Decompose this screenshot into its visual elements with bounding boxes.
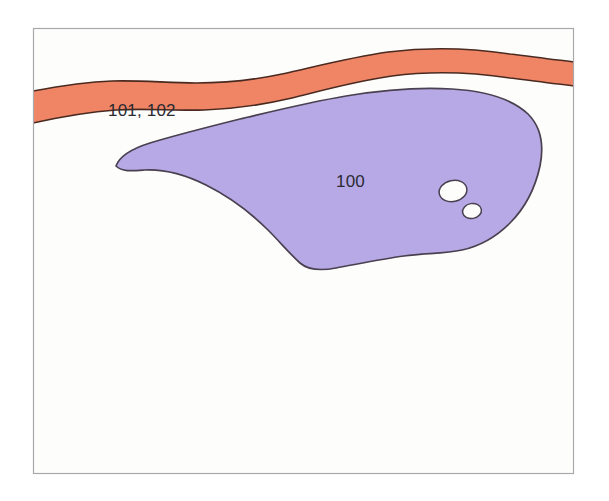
figure-root: 101, 102 100 bbox=[0, 0, 609, 501]
label-main-body: 100 bbox=[336, 172, 365, 191]
geologic-cross-section-diagram: 101, 102 100 bbox=[0, 0, 609, 501]
label-upper-band: 101, 102 bbox=[108, 101, 176, 120]
